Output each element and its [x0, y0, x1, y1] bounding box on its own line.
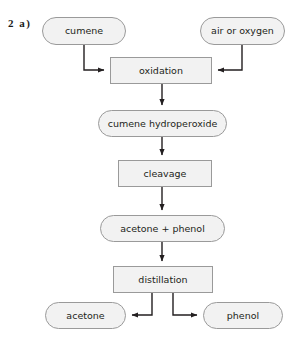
- node-acetone-plus-phenol: acetone + phenol: [100, 215, 225, 242]
- node-label: oxidation: [139, 66, 183, 76]
- node-acetone: acetone: [45, 302, 126, 329]
- node-label: cumene: [65, 26, 103, 36]
- node-label: cleavage: [144, 169, 187, 179]
- node-distillation: distillation: [113, 266, 213, 293]
- flowchart-figure: 2 a) cumene air or oxygen oxidation cume…: [0, 0, 295, 339]
- node-cumene-hydroperoxide: cumene hydroperoxide: [98, 110, 227, 137]
- question-label: 2 a): [8, 17, 31, 29]
- node-cumene: cumene: [42, 17, 126, 45]
- node-label: air or oxygen: [211, 26, 274, 36]
- node-label: cumene hydroperoxide: [108, 119, 218, 129]
- edge-air-oxygen-to-oxidation: [218, 45, 242, 70]
- edge-distillation-to-phenol: [173, 293, 197, 315]
- node-label: distillation: [138, 275, 187, 285]
- node-air-or-oxygen: air or oxygen: [200, 17, 285, 45]
- node-cleavage: cleavage: [118, 160, 212, 187]
- node-oxidation: oxidation: [110, 57, 212, 84]
- edge-cumene-to-oxidation: [84, 45, 104, 70]
- node-label: acetone: [66, 311, 104, 321]
- edge-distillation-to-acetone: [132, 293, 152, 315]
- node-label: phenol: [227, 311, 259, 321]
- node-label: acetone + phenol: [120, 224, 205, 234]
- node-phenol: phenol: [203, 302, 283, 329]
